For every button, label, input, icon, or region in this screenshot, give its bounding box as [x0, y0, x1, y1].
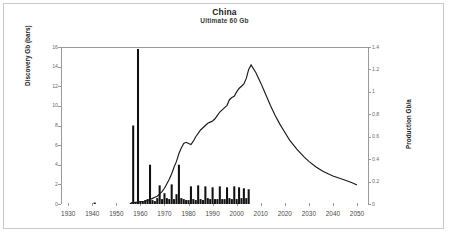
left-tick-label: 12: [52, 84, 58, 89]
left-tick-label: 8: [55, 123, 58, 128]
left-tick-label: 0: [55, 202, 58, 207]
right-axis-label: Production Gb/a: [405, 99, 412, 149]
x-tick-label: 2050: [344, 210, 370, 217]
right-tick-label: 0.6: [372, 134, 379, 139]
x-tick-label: 1970: [151, 210, 177, 217]
right-tick-label: 0.4: [372, 157, 379, 162]
right-tick-mark: [368, 204, 371, 205]
chart-subtitle: Ultimate 60 Gb: [4, 17, 445, 24]
x-tick-label: 2000: [224, 210, 250, 217]
left-tick-label: 16: [52, 45, 58, 50]
x-tick-label: 2040: [320, 210, 346, 217]
right-tick-label: 0.2: [372, 179, 379, 184]
x-tick-label: 1980: [176, 210, 202, 217]
plot-area: 0246810121416 00.20.40.60.811.21.4 19301…: [61, 47, 369, 204]
right-tick-label: 0.8: [372, 112, 379, 117]
left-axis-label: Discovery Gb (bars): [24, 25, 31, 86]
right-tick-label: 0: [372, 202, 375, 207]
x-tick-label: 1930: [55, 210, 81, 217]
production-curve: [61, 47, 369, 204]
left-tick-label: 4: [55, 162, 58, 167]
chart-frame: China Ultimate 60 Gb Discovery Gb (bars)…: [3, 3, 444, 229]
x-tick-label: 1950: [103, 210, 129, 217]
right-tick-label: 1: [372, 89, 375, 94]
chart-title: China: [4, 7, 445, 17]
x-tick-label: 1990: [200, 210, 226, 217]
x-tick-label: 1940: [79, 210, 105, 217]
right-tick-label: 1.2: [372, 67, 379, 72]
left-tick-mark: [58, 204, 61, 205]
right-tick-label: 1.4: [372, 45, 379, 50]
left-tick-label: 2: [55, 182, 58, 187]
x-tick-label: 2030: [296, 210, 322, 217]
x-tick-label: 1960: [127, 210, 153, 217]
production-line: [131, 65, 357, 203]
x-tick-label: 2020: [272, 210, 298, 217]
left-tick-label: 10: [52, 103, 58, 108]
left-tick-label: 6: [55, 143, 58, 148]
x-tick-label: 2010: [248, 210, 274, 217]
left-tick-label: 14: [52, 64, 58, 69]
